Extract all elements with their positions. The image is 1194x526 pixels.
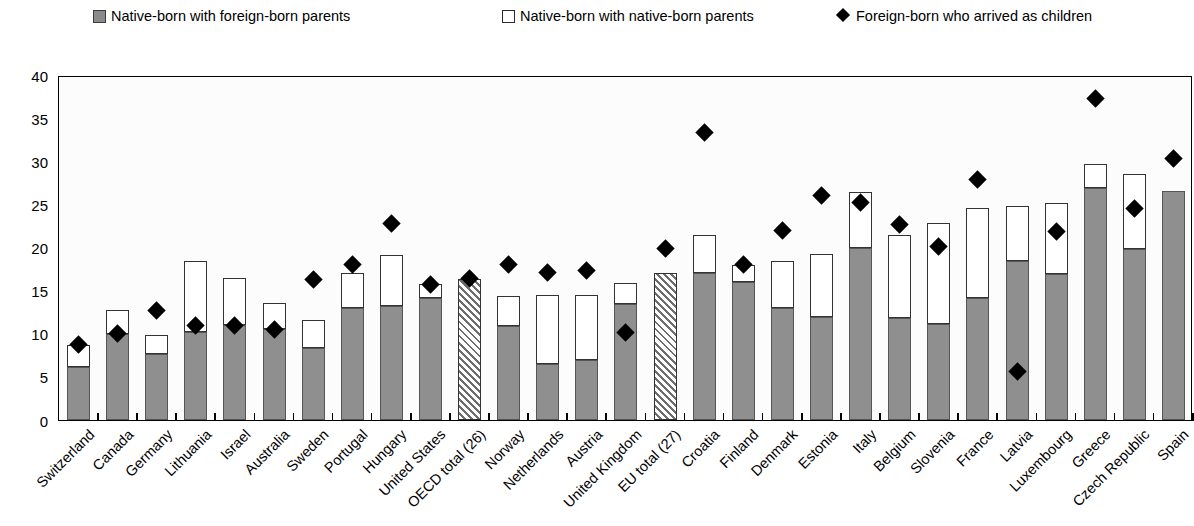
bar-segment-hatched-total — [458, 279, 481, 420]
bar-segment-foreign-parents — [1045, 274, 1068, 420]
bar-group — [567, 75, 606, 420]
bar-group — [528, 75, 567, 420]
bar-group — [880, 75, 919, 420]
bar-segment-native-parents — [380, 255, 403, 306]
stacked-bar — [341, 75, 364, 420]
bar-group — [802, 75, 841, 420]
bar-group — [255, 75, 294, 420]
y-axis-tick-label: 25 — [4, 198, 48, 213]
legend-item-foreign-born-arrived-as-children: Foreign-born who arrived as children — [837, 8, 1092, 24]
bar-group — [958, 75, 997, 420]
stacked-bar — [67, 75, 90, 420]
bar-segment-native-parents — [966, 208, 989, 298]
bar-segment-native-parents — [302, 320, 325, 348]
bar-group — [215, 75, 254, 420]
stacked-bar — [536, 75, 559, 420]
x-axis-labels: SwitzerlandCanadaGermanyLithuaniaIsraelA… — [0, 421, 1194, 526]
bar-segment-foreign-parents — [771, 308, 794, 420]
y-axis: 0510152025303540 — [0, 60, 58, 440]
bar-segment-foreign-parents — [145, 354, 168, 420]
bar-segment-foreign-parents — [380, 306, 403, 420]
bar-group — [606, 75, 645, 420]
chart-figure: Native-born with foreign-born parents Na… — [0, 0, 1194, 526]
stacked-bar — [419, 75, 442, 420]
y-axis-tick-label: 10 — [4, 327, 48, 342]
bar-group — [1115, 75, 1154, 420]
stacked-bar — [458, 75, 481, 420]
bar-group — [98, 75, 137, 420]
stacked-bar — [184, 75, 207, 420]
bar-segment-foreign-parents — [888, 318, 911, 420]
legend-label: Native-born with native-born parents — [520, 8, 754, 24]
bar-group — [919, 75, 958, 420]
bar-segment-foreign-parents — [693, 273, 716, 420]
bar-segment-foreign-parents — [184, 332, 207, 420]
bar-group — [176, 75, 215, 420]
stacked-bar — [223, 75, 246, 420]
legend-label: Foreign-born who arrived as children — [856, 8, 1092, 24]
bar-segment-foreign-parents — [106, 334, 129, 420]
stacked-bar — [497, 75, 520, 420]
bar-group — [763, 75, 802, 420]
y-axis-tick-label: 30 — [4, 155, 48, 170]
x-axis-label: Switzerland — [34, 427, 98, 491]
x-axis-label: Italy — [850, 427, 879, 456]
bar-segment-foreign-parents — [575, 360, 598, 420]
bar-group — [1037, 75, 1076, 420]
bar-segment-native-parents — [341, 273, 364, 308]
bar-segment-native-parents — [575, 295, 598, 360]
bar-group — [411, 75, 450, 420]
x-axis-label: Israel — [218, 427, 254, 463]
stacked-bar — [732, 75, 755, 420]
bar-segment-foreign-parents — [223, 325, 246, 420]
bar-segment-foreign-parents — [67, 367, 90, 420]
y-axis-tick-label: 20 — [4, 241, 48, 256]
bar-segment-foreign-parents — [497, 326, 520, 420]
bar-segment-native-parents — [1084, 164, 1107, 188]
bar-segment-foreign-parents — [419, 298, 442, 420]
bar-group — [59, 75, 98, 420]
stacked-bar — [263, 75, 286, 420]
bar-segment-native-parents — [497, 296, 520, 326]
y-axis-tick-label: 40 — [4, 69, 48, 84]
bar-group — [646, 75, 685, 420]
bar-segment-foreign-parents — [1084, 188, 1107, 420]
stacked-bar — [849, 75, 872, 420]
y-axis-tick-label: 15 — [4, 284, 48, 299]
bar-segment-native-parents — [536, 295, 559, 364]
chart-legend: Native-born with foreign-born parents Na… — [0, 0, 1194, 34]
bar-group — [997, 75, 1036, 420]
bar-segment-foreign-parents — [966, 298, 989, 420]
stacked-bar — [771, 75, 794, 420]
bar-segment-foreign-parents — [810, 317, 833, 421]
white-square-swatch-icon — [502, 10, 515, 23]
bar-group — [372, 75, 411, 420]
bar-segment-native-parents — [771, 261, 794, 308]
bar-segment-native-parents — [1006, 206, 1029, 261]
stacked-bar — [380, 75, 403, 420]
bar-segment-native-parents — [888, 235, 911, 318]
x-axis-label: Estonia — [795, 427, 840, 472]
stacked-bar — [302, 75, 325, 420]
bar-segment-foreign-parents — [1006, 261, 1029, 420]
x-axis-label: Spain — [1155, 427, 1192, 464]
bar-segment-hatched-total — [654, 273, 677, 420]
bar-group — [724, 75, 763, 420]
stacked-bar — [614, 75, 637, 420]
bar-segment-foreign-parents — [341, 308, 364, 420]
stacked-bar — [1084, 75, 1107, 420]
bar-segment-foreign-parents — [927, 324, 950, 420]
y-axis-tick-label: 5 — [4, 370, 48, 385]
bar-group — [333, 75, 372, 420]
black-diamond-marker-icon — [837, 9, 851, 23]
stacked-bar — [106, 75, 129, 420]
legend-item-native-born-native-parents: Native-born with native-born parents — [502, 8, 754, 24]
bar-group — [450, 75, 489, 420]
legend-item-native-born-foreign-parents: Native-born with foreign-born parents — [93, 8, 350, 24]
stacked-bar — [810, 75, 833, 420]
legend-label: Native-born with foreign-born parents — [111, 8, 350, 24]
stacked-bar — [966, 75, 989, 420]
bar-segment-native-parents — [810, 254, 833, 317]
plot-area — [58, 76, 1192, 421]
bar-segment-foreign-parents — [614, 304, 637, 420]
